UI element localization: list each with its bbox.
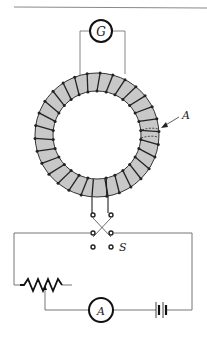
reversing-switch[interactable] (91, 213, 113, 249)
ammeter-label: A (96, 305, 105, 318)
toroid-leads (92, 196, 108, 213)
galvanometer-label: G (96, 25, 106, 39)
ammeter: A (89, 298, 113, 322)
svg-text:A: A (181, 109, 190, 122)
battery (156, 302, 166, 318)
cross-section-label: A (161, 109, 190, 128)
toroid (34, 72, 161, 198)
galvanometer: G (90, 20, 112, 42)
rheostat[interactable] (20, 279, 62, 291)
switch-label: S (119, 241, 127, 254)
circuit-diagram: G A S (0, 0, 207, 338)
top-rule (14, 7, 207, 8)
